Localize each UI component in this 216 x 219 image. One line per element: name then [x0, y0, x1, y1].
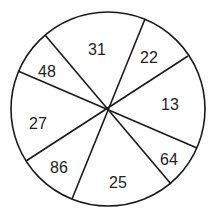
segment-label: 31 [88, 41, 106, 58]
segment-label: 13 [161, 96, 179, 113]
segment-label: 48 [38, 63, 56, 80]
segment-label: 27 [29, 115, 47, 132]
segmented-circle-diagram: 31 22 13 64 25 86 27 48 [0, 0, 216, 219]
segment-label: 64 [160, 151, 178, 168]
segment-label: 86 [50, 159, 68, 176]
segment-label: 25 [109, 174, 127, 191]
segment-label: 22 [140, 49, 158, 66]
